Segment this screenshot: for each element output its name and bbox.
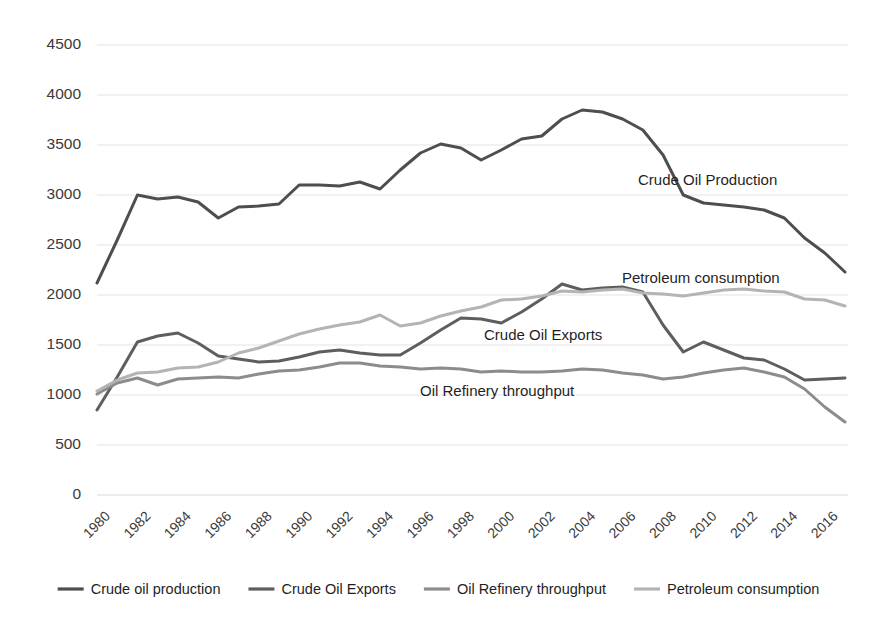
series-annotation: Oil Refinery throughput xyxy=(420,382,575,399)
series-annotation: Crude Oil Exports xyxy=(484,326,602,343)
y-axis-tick-label: 0 xyxy=(72,485,81,502)
series-annotation: Petroleum consumption xyxy=(622,269,780,286)
legend-label[interactable]: Oil Refinery throughput xyxy=(457,581,606,597)
line-chart: 050010001500200025003000350040004500 198… xyxy=(0,0,877,623)
x-axis-tick-label: 1980 xyxy=(80,508,113,541)
x-axis-tick-label: 2000 xyxy=(484,508,517,541)
legend-label[interactable]: Crude oil production xyxy=(91,581,221,597)
y-axis-tick-label: 2000 xyxy=(47,285,82,302)
x-axis-tick-label: 1984 xyxy=(161,508,194,541)
x-axis-tick-label: 1992 xyxy=(322,508,355,541)
series-line-3 xyxy=(97,289,845,391)
x-axis-tick-label: 2006 xyxy=(605,508,638,541)
x-axis-tick-label: 1988 xyxy=(242,508,275,541)
y-axis-tick-label: 2500 xyxy=(47,235,82,252)
series-group xyxy=(97,110,845,422)
y-axis-tick-label: 1500 xyxy=(47,335,82,352)
x-axis-tick-label: 1996 xyxy=(403,508,436,541)
y-axis-tick-label: 500 xyxy=(55,435,81,452)
y-axis-tick-label: 1000 xyxy=(47,385,82,402)
x-axis-tick-label: 1982 xyxy=(120,508,153,541)
x-axis-tick-label: 2008 xyxy=(646,508,679,541)
x-axis-tick-label: 2012 xyxy=(727,508,760,541)
x-axis-tick-label: 1986 xyxy=(201,508,234,541)
x-axis-tick-label: 1990 xyxy=(282,508,315,541)
legend-label[interactable]: Petroleum consumption xyxy=(667,581,819,597)
y-axis-tick-label: 4500 xyxy=(47,35,82,52)
y-axis-labels: 050010001500200025003000350040004500 xyxy=(47,35,82,502)
x-axis-tick-label: 2016 xyxy=(808,508,841,541)
legend-label[interactable]: Crude Oil Exports xyxy=(281,581,395,597)
x-axis-tick-label: 2010 xyxy=(686,508,719,541)
legend-group: Crude oil productionCrude Oil ExportsOil… xyxy=(58,581,820,597)
x-axis-tick-label: 2014 xyxy=(767,508,800,541)
chart-container: 050010001500200025003000350040004500 198… xyxy=(0,0,877,623)
x-axis-tick-label: 2002 xyxy=(525,508,558,541)
series-line-0 xyxy=(97,110,845,283)
series-annotation: Crude Oil Production xyxy=(638,171,777,188)
x-axis-labels: 1980198219841986198819901992199419961998… xyxy=(80,508,841,541)
x-axis-tick-label: 1994 xyxy=(363,508,396,541)
y-axis-tick-label: 3000 xyxy=(47,185,82,202)
x-axis-tick-label: 1998 xyxy=(444,508,477,541)
y-axis-tick-label: 4000 xyxy=(47,85,82,102)
x-axis-tick-label: 2004 xyxy=(565,508,598,541)
y-axis-tick-label: 3500 xyxy=(47,135,82,152)
